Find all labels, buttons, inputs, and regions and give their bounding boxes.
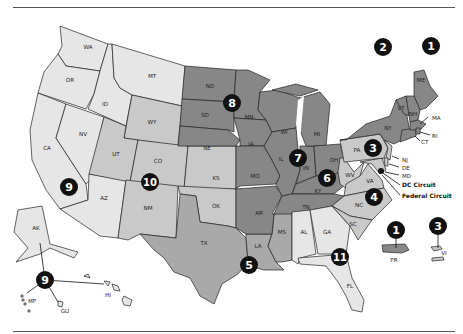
svg-text:8: 8	[228, 97, 236, 110]
label-az: AZ	[100, 195, 108, 201]
svg-text:1: 1	[392, 224, 400, 237]
label-wv: WV	[345, 172, 355, 178]
label-ct: CT	[421, 139, 429, 145]
circuit-badge-6[interactable]: 6	[318, 169, 336, 187]
state-hi[interactable]	[84, 274, 132, 306]
label-me: ME	[417, 77, 426, 83]
label-ut: UT	[112, 151, 120, 157]
label-ma: MA	[432, 115, 441, 121]
label-wy: WY	[148, 119, 158, 125]
state-fl[interactable]	[298, 254, 364, 312]
circuit-badge-9-pacific[interactable]: 9	[36, 271, 54, 289]
circuit-badge-10[interactable]: 10	[141, 173, 159, 191]
svg-text:4: 4	[370, 191, 378, 204]
label-vi: VI	[441, 250, 447, 256]
svg-text:9: 9	[65, 181, 73, 194]
label-ny: NY	[384, 125, 392, 131]
label-mn: MN	[244, 114, 253, 120]
label-mo: MO	[250, 173, 260, 179]
label-nm: NM	[143, 205, 152, 211]
svg-text:3: 3	[434, 220, 442, 233]
label-mi: MI	[314, 131, 321, 137]
state-ri[interactable]	[416, 128, 420, 134]
label-tx: TX	[199, 240, 207, 246]
label-pr: PR	[390, 257, 397, 263]
svg-text:11: 11	[333, 252, 347, 263]
label-ne: NE	[203, 145, 211, 151]
label-ak: AK	[32, 225, 40, 231]
label-oh: OH	[330, 157, 339, 163]
label-dc-circuit: DC Circuit	[402, 181, 436, 188]
svg-text:9: 9	[41, 274, 49, 287]
circuit-badge-5[interactable]: 5	[240, 256, 258, 274]
label-de: DE	[402, 165, 410, 171]
label-gu: GU	[61, 308, 69, 314]
label-ga: GA	[323, 229, 331, 235]
svg-text:7: 7	[294, 152, 302, 165]
label-vt: VT	[397, 105, 405, 111]
label-la: LA	[254, 243, 261, 249]
circuit-badge-3-vi[interactable]: 3	[429, 217, 447, 235]
circuit-badge-1[interactable]: 1	[422, 37, 440, 55]
territory-gu[interactable]	[58, 301, 63, 307]
state-ks[interactable]	[184, 146, 236, 189]
label-nc: NC	[355, 202, 363, 208]
label-sc: SC	[349, 221, 357, 227]
label-ok: OK	[212, 203, 220, 209]
label-nh: NH	[409, 111, 417, 117]
circuit-badge-1-pr[interactable]: 1	[387, 221, 405, 239]
label-ri: RI	[432, 133, 438, 139]
label-fl: FL	[347, 283, 354, 289]
label-ms: MS	[278, 229, 287, 235]
label-co: CO	[154, 158, 163, 164]
circuit-badge-7[interactable]: 7	[289, 149, 307, 167]
label-id: ID	[102, 101, 108, 107]
label-md: MD	[402, 173, 411, 179]
svg-text:10: 10	[143, 177, 157, 188]
circuit-map: WA OR ID MT CA NV AZ AK HI MP GU UT CO W…	[0, 0, 463, 334]
label-pa: PA	[354, 147, 361, 153]
label-nd: ND	[206, 83, 215, 89]
label-mt: MT	[148, 73, 157, 79]
label-ia: IA	[248, 141, 254, 147]
circuit-badge-2[interactable]: 2	[374, 38, 392, 56]
territory-pr[interactable]	[382, 244, 409, 253]
label-nj: NJ	[402, 157, 408, 164]
svg-text:2: 2	[379, 41, 387, 54]
svg-text:6: 6	[323, 172, 331, 185]
svg-text:3: 3	[369, 142, 377, 155]
label-ky: KY	[315, 188, 322, 194]
label-or: OR	[66, 77, 74, 83]
circuit-badge-3[interactable]: 3	[364, 139, 382, 157]
circuit-badge-8[interactable]: 8	[223, 94, 241, 112]
circuit-badge-9[interactable]: 9	[60, 178, 78, 196]
label-sd: SD	[201, 112, 209, 118]
label-wa: WA	[83, 44, 92, 50]
circuit-badge-11[interactable]: 11	[331, 248, 349, 266]
svg-text:1: 1	[427, 40, 435, 53]
circuit-badge-4[interactable]: 4	[365, 188, 383, 206]
label-nv: NV	[79, 131, 87, 137]
label-ks: KS	[212, 175, 220, 181]
label-ca: CA	[43, 145, 51, 151]
label-hi: HI	[105, 292, 111, 298]
label-tn: TN	[301, 204, 310, 210]
svg-text:5: 5	[245, 259, 253, 272]
state-de[interactable]	[384, 158, 388, 166]
label-va: VA	[366, 178, 373, 184]
label-ar: AR	[255, 210, 263, 216]
label-mp: MP	[28, 298, 37, 304]
label-federal-circuit: Federal Circuit	[402, 192, 452, 199]
label-wi: WI	[280, 129, 288, 135]
label-in: IN	[303, 165, 309, 171]
label-al: AL	[301, 229, 309, 235]
